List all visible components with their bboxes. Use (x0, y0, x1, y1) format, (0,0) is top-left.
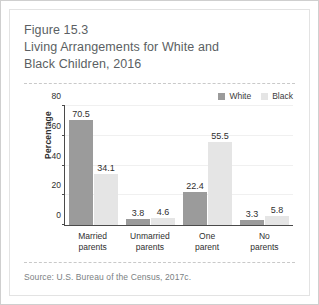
bar-column[interactable]: 5.8 (265, 106, 289, 225)
bar-group: 3.35.8 (240, 106, 289, 225)
figure-inner: Figure 15.3 Living Arrangements for Whit… (9, 9, 310, 296)
bar-column[interactable]: 22.4 (183, 106, 207, 225)
bar-value-label: 34.1 (97, 163, 115, 173)
bar-value-label: 3.3 (246, 209, 259, 219)
bar-white[interactable] (183, 192, 207, 225)
bar-column[interactable]: 70.5 (69, 106, 93, 225)
chart-legend: White Black (218, 92, 293, 101)
bar-black[interactable] (151, 218, 175, 225)
bar-value-label: 70.5 (72, 109, 90, 119)
bar-black[interactable] (265, 216, 289, 225)
legend-swatch-black (261, 93, 268, 100)
bar-value-label: 22.4 (186, 181, 204, 191)
bar-groups: 70.534.13.84.622.455.53.35.8 (65, 106, 293, 225)
title-divider (24, 83, 295, 84)
legend-item-white: White (218, 92, 251, 101)
y-tick-label: 0 (56, 210, 61, 220)
legend-label-black: Black (272, 92, 293, 101)
bar-value-label: 5.8 (271, 205, 284, 215)
y-tick-label: 20 (52, 180, 61, 190)
x-axis-labels: Married parentsUnmarried parentsOne pare… (64, 228, 293, 260)
bar-black[interactable] (208, 142, 232, 225)
x-axis-label: No parents (238, 228, 290, 260)
bar-black[interactable] (94, 174, 118, 225)
legend-label-white: White (229, 92, 251, 101)
bar-white[interactable] (240, 220, 264, 225)
y-tick-label: 40 (52, 151, 61, 161)
bar-column[interactable]: 3.8 (126, 106, 150, 225)
figure-card: Figure 15.3 Living Arrangements for Whit… (0, 0, 319, 305)
y-tick-label: 60 (52, 121, 61, 131)
bar-group: 70.534.1 (69, 106, 118, 225)
bar-white[interactable] (69, 120, 93, 225)
bar-group: 22.455.5 (183, 106, 232, 225)
legend-item-black: Black (261, 92, 293, 101)
bar-value-label: 4.6 (157, 207, 170, 217)
bar-chart: White Black Percentage 020406080 70.534.… (24, 92, 295, 260)
bar-column[interactable]: 34.1 (94, 106, 118, 225)
bar-white[interactable] (126, 219, 150, 225)
bar-value-label: 3.8 (132, 208, 145, 218)
bar-column[interactable]: 4.6 (151, 106, 175, 225)
bar-group: 3.84.6 (126, 106, 175, 225)
source-note: Source: U.S. Bureau of the Census, 2017c… (24, 263, 295, 282)
bar-value-label: 55.5 (211, 131, 229, 141)
bar-column[interactable]: 3.3 (240, 106, 264, 225)
x-axis-label: Unmarried parents (124, 228, 176, 260)
y-tick-label: 80 (52, 91, 61, 101)
plot-area: 020406080 70.534.13.84.622.455.53.35.8 (64, 106, 293, 226)
x-axis-label: Married parents (67, 228, 119, 260)
y-axis-label: Percentage (43, 95, 53, 175)
figure-title: Figure 15.3 Living Arrangements for Whit… (24, 22, 295, 73)
x-axis-label: One parent (181, 228, 233, 260)
legend-swatch-white (218, 93, 225, 100)
bar-column[interactable]: 55.5 (208, 106, 232, 225)
